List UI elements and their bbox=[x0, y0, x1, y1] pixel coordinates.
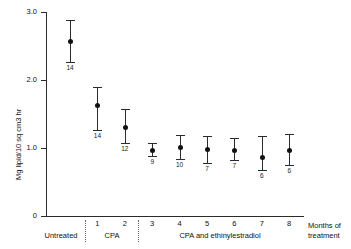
data-point-marker bbox=[232, 148, 237, 153]
error-bar-cap bbox=[203, 163, 212, 164]
data-point-marker bbox=[68, 39, 73, 44]
y-tick-mark bbox=[41, 148, 46, 149]
y-tick-label: 0 bbox=[13, 211, 37, 220]
data-point-marker bbox=[95, 103, 100, 108]
x-axis-title: Months of treatment bbox=[308, 221, 341, 240]
error-bar-cap bbox=[258, 136, 267, 137]
x-tick-label: 6 bbox=[226, 219, 242, 228]
y-tick-label: 1.0 bbox=[13, 143, 37, 152]
group-divider-cpa-combo bbox=[138, 220, 139, 242]
error-bar-cap bbox=[230, 160, 239, 161]
y-axis-line bbox=[46, 12, 47, 217]
error-bar-cap bbox=[230, 138, 239, 139]
error-bar-cap bbox=[285, 165, 294, 166]
data-point-marker bbox=[260, 155, 265, 160]
error-bar-cap bbox=[66, 20, 75, 21]
error-bar-cap bbox=[285, 134, 294, 135]
error-bar-cap bbox=[176, 135, 185, 136]
sample-size-label: 7 bbox=[226, 162, 242, 169]
x-axis-line bbox=[46, 216, 304, 217]
group-label-cpa: CPA bbox=[90, 231, 134, 240]
y-tick-label: 3.0 bbox=[13, 7, 37, 16]
y-tick-label: 2.0 bbox=[13, 75, 37, 84]
x-tick-label: 5 bbox=[199, 219, 215, 228]
error-bar-cap bbox=[93, 87, 102, 88]
error-bar-cap bbox=[148, 143, 157, 144]
x-tick-label: 2 bbox=[117, 219, 133, 228]
data-point-marker bbox=[178, 145, 183, 150]
group-divider-untreated-cpa bbox=[85, 220, 86, 242]
sample-size-label: 6 bbox=[254, 172, 270, 179]
x-tick-label: 3 bbox=[144, 219, 160, 228]
group-label-cpa-ethinylestradiol: CPA and ethinylestradiol bbox=[140, 231, 300, 240]
data-point-marker bbox=[287, 148, 292, 153]
sample-size-label: 7 bbox=[199, 165, 215, 172]
error-bar bbox=[97, 87, 98, 131]
error-bar-cap bbox=[258, 170, 267, 171]
y-tick-mark bbox=[41, 216, 46, 217]
error-bar-cap bbox=[93, 130, 102, 131]
data-point-marker bbox=[150, 148, 155, 153]
sample-size-label: 6 bbox=[281, 167, 297, 174]
x-tick-label: 7 bbox=[254, 219, 270, 228]
error-bar-cap bbox=[121, 143, 130, 144]
lipid-excretion-scatter-chart: Mg lipid/10 sq cm3 hr 01.02.03.0 1234567… bbox=[0, 0, 351, 249]
error-bar bbox=[262, 136, 263, 170]
sample-size-label: 10 bbox=[172, 161, 188, 168]
data-point-marker bbox=[123, 125, 128, 130]
x-axis-title-line-2: treatment bbox=[308, 231, 341, 241]
x-axis-title-line-1: Months of bbox=[308, 221, 341, 231]
error-bar-cap bbox=[66, 62, 75, 63]
x-tick-label: 1 bbox=[89, 219, 105, 228]
x-tick-label: 4 bbox=[172, 219, 188, 228]
group-label-untreated: Untreated bbox=[39, 231, 83, 240]
error-bar-cap bbox=[176, 159, 185, 160]
x-tick-label: 8 bbox=[281, 219, 297, 228]
error-bar-cap bbox=[203, 136, 212, 137]
data-point-marker bbox=[205, 147, 210, 152]
sample-size-label: 14 bbox=[62, 64, 78, 71]
y-tick-mark bbox=[41, 80, 46, 81]
y-tick-mark bbox=[41, 12, 46, 13]
sample-size-label: 14 bbox=[89, 132, 105, 139]
sample-size-label: 12 bbox=[117, 145, 133, 152]
error-bar-cap bbox=[148, 156, 157, 157]
sample-size-label: 9 bbox=[144, 158, 160, 165]
error-bar-cap bbox=[121, 109, 130, 110]
